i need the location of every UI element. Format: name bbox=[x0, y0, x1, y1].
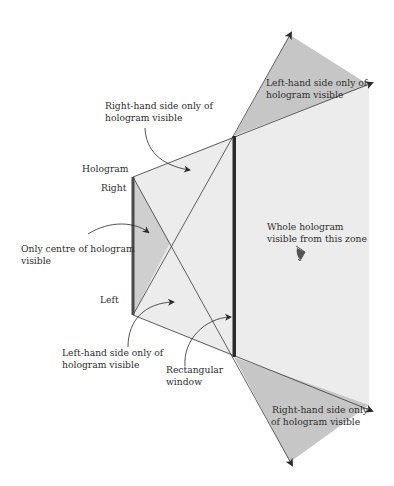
rectangular-window-bar bbox=[233, 136, 237, 357]
label-whole-hologram-line2: visible from this zone bbox=[266, 233, 367, 244]
hologram-viewing-diagram: Hologram Right Left Only centre of holog… bbox=[0, 0, 394, 486]
label-only-centre-line1: Only centre of hologram bbox=[21, 243, 135, 254]
label-left: Left bbox=[100, 294, 119, 305]
label-lhs-top-zone-line2: hologram visible bbox=[266, 89, 343, 100]
label-only-centre-line2: visible bbox=[20, 255, 51, 266]
label-whole-hologram-line1: Whole hologram bbox=[267, 221, 344, 232]
label-rhs-bottom-zone-line1: Right-hand side only bbox=[272, 404, 369, 415]
label-hologram: Hologram bbox=[82, 163, 129, 174]
label-rhs-upper-line1: Right-hand side only of bbox=[105, 100, 213, 111]
label-window-line1: Rectangular bbox=[166, 364, 224, 375]
label-lhs-lower-line2: hologram visible bbox=[62, 359, 139, 370]
label-lhs-top-zone-line1: Left-hand side only of bbox=[266, 77, 368, 88]
label-rhs-upper-line2: hologram visible bbox=[105, 112, 182, 123]
region-whole-hologram-visible bbox=[234, 85, 369, 405]
label-right: Right bbox=[101, 182, 127, 193]
label-window-line2: window bbox=[166, 376, 202, 387]
label-rhs-bottom-zone-line2: of hologram visible bbox=[271, 416, 360, 427]
label-lhs-lower-line1: Left-hand side only of bbox=[62, 347, 164, 358]
